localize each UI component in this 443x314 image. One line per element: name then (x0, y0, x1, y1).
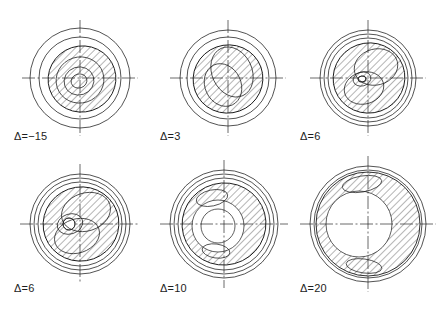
panel-4 (10, 154, 150, 294)
panel-label-2: Δ=3 (160, 130, 181, 142)
figure-contour-panels: Δ=−15 Δ=3 Δ=6 Δ=6 Δ=10 Δ=20 (0, 0, 443, 314)
panel-2 (158, 8, 298, 148)
panel-label-5: Δ=10 (160, 282, 187, 294)
panel-label-1: Δ=−15 (14, 130, 47, 142)
panel-label-3: Δ=6 (300, 130, 321, 142)
panel-5 (154, 154, 294, 294)
panel-6 (298, 154, 438, 294)
panel-3 (298, 8, 438, 148)
figure-canvas (0, 0, 443, 314)
panel-label-4: Δ=6 (14, 282, 35, 294)
panel-label-6: Δ=20 (300, 282, 327, 294)
hatch-fill (298, 154, 438, 294)
panel-1 (10, 8, 150, 148)
hatch-fill (154, 154, 294, 294)
